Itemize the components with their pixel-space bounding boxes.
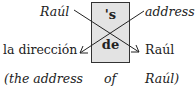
gloss-left: (the address (4, 71, 83, 86)
spanish-possessed: la dirección (3, 42, 77, 57)
english-possessor: Raúl (40, 4, 69, 19)
spanish-possessor: Raúl (145, 42, 174, 57)
gloss-right: Raúl) (145, 71, 179, 86)
english-possessed: address (145, 4, 195, 19)
gloss-middle: of (104, 71, 116, 86)
